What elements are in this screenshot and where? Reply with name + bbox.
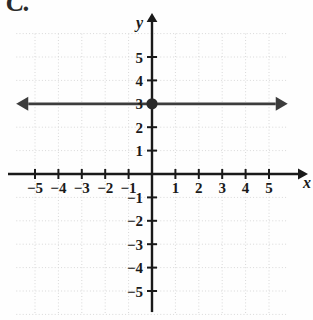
y-tick-label: 2 [136, 120, 144, 136]
y-tick-label: 4 [136, 73, 144, 89]
x-tick-label: 2 [195, 180, 203, 196]
y-tick-label: 5 [136, 50, 144, 66]
x-tick-label: 3 [218, 180, 226, 196]
x-tick-label: 5 [265, 180, 273, 196]
y-tick-label: −5 [127, 284, 143, 300]
plotted-point-0-3 [146, 98, 157, 109]
x-tick-label: −5 [27, 180, 43, 196]
y-tick-label: −3 [127, 237, 143, 253]
function-line-right-arrow-icon [276, 97, 288, 111]
x-tick-label: 1 [172, 180, 180, 196]
x-tick-label: −4 [50, 180, 67, 196]
y-tick-label: −4 [127, 260, 144, 276]
coordinate-plane-svg: −5−4−3−2−11234554321−1−2−3−4−5 y x [0, 0, 313, 320]
graph-screenshot: C. [0, 0, 313, 320]
y-axis-label: y [134, 14, 144, 32]
y-tick-label: −1 [127, 190, 143, 206]
y-tick-label: 3 [136, 96, 144, 112]
plotted-point-group [146, 98, 157, 109]
y-axis-arrow-icon [147, 13, 158, 22]
coordinate-plane-plot: −5−4−3−2−11234554321−1−2−3−4−5 y x [0, 0, 313, 320]
y-tick-label: −2 [127, 213, 143, 229]
y-tick-label: 1 [136, 143, 144, 159]
x-tick-label: −3 [74, 180, 90, 196]
x-tick-label: −2 [97, 180, 113, 196]
x-axis-label: x [302, 174, 311, 191]
x-tick-label: 4 [242, 180, 250, 196]
function-line-left-arrow-icon [16, 97, 28, 111]
